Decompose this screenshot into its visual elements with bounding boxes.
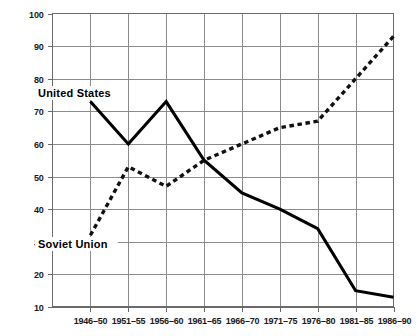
y-tick-label: 90 xyxy=(34,42,44,52)
x-tick-label: 1981–85 xyxy=(340,316,374,326)
series-label-soviet-union: Soviet Union xyxy=(38,238,108,250)
y-tick-label: 100 xyxy=(29,10,44,20)
chart-container: 102030405060708090100 1946–501951–551956… xyxy=(0,0,418,336)
y-tick-label: 20 xyxy=(34,270,44,280)
y-tick-label: 70 xyxy=(34,107,44,117)
x-tick-label: 1966–70 xyxy=(226,316,260,326)
line-chart: 102030405060708090100 1946–501951–551956… xyxy=(0,0,418,336)
x-tick-label: 1951–55 xyxy=(112,316,146,326)
x-tick-label: 1946–50 xyxy=(74,316,108,326)
y-tick-label: 40 xyxy=(34,205,44,215)
x-tick-label: 1986–90 xyxy=(378,316,412,326)
series-label-united-states: United States xyxy=(38,87,111,99)
x-tick-label: 1971–75 xyxy=(264,316,298,326)
chart-background xyxy=(0,0,418,336)
x-tick-label: 1956–60 xyxy=(150,316,184,326)
y-tick-label: 50 xyxy=(34,173,44,183)
x-tick-label: 1976–80 xyxy=(302,316,336,326)
y-tick-label: 60 xyxy=(34,140,44,150)
x-axis-labels: 1946–501951–551956–601961–651966–701971–… xyxy=(74,316,412,326)
x-tick-label: 1961–65 xyxy=(188,316,222,326)
y-tick-label: 10 xyxy=(34,303,44,313)
y-tick-label: 80 xyxy=(34,75,44,85)
